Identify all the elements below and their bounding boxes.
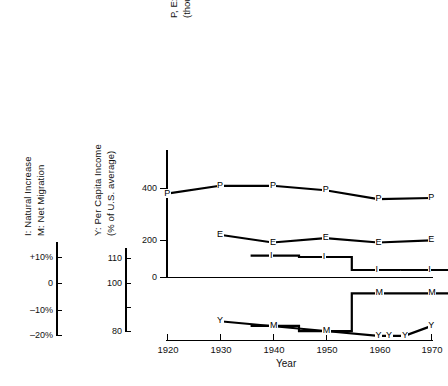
point-marker-E: E xyxy=(428,235,435,244)
point-marker-Y: Y xyxy=(428,321,435,330)
point-marker-I: I xyxy=(428,265,432,274)
point-marker-E: E xyxy=(322,233,329,242)
series-line-M xyxy=(251,293,448,331)
point-marker-P: P xyxy=(322,185,329,194)
point-marker-E: E xyxy=(269,238,276,247)
point-marker-Y: Y xyxy=(375,331,382,340)
point-marker-Y: Y xyxy=(401,331,408,340)
series-line-I xyxy=(251,256,448,270)
point-marker-M: M xyxy=(375,288,384,297)
point-marker-Y: Y xyxy=(386,331,393,340)
point-marker-P: P xyxy=(375,194,382,203)
point-marker-Y: Y xyxy=(217,316,224,325)
point-marker-I: I xyxy=(269,251,273,260)
series-line-P xyxy=(167,186,431,199)
point-marker-M: M xyxy=(269,321,278,330)
point-marker-P: P xyxy=(217,181,224,190)
point-marker-I: I xyxy=(375,265,379,274)
point-marker-I: I xyxy=(322,252,326,261)
point-marker-P: P xyxy=(164,189,171,198)
point-marker-M: M xyxy=(428,288,437,297)
point-marker-E: E xyxy=(217,230,224,239)
point-marker-P: P xyxy=(428,193,435,202)
point-marker-M: M xyxy=(322,326,331,335)
point-marker-P: P xyxy=(269,181,276,190)
point-marker-E: E xyxy=(375,238,382,247)
